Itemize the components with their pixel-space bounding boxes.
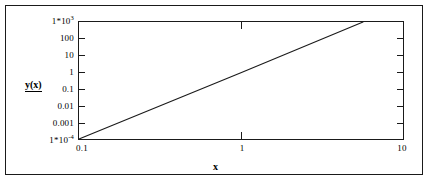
y-tick-label: 1 xyxy=(69,68,74,77)
y-tick-label: 0.001 xyxy=(53,119,74,128)
plot-area xyxy=(78,21,404,140)
y-tick-label: 0.1 xyxy=(62,85,74,94)
y-axis-title: y(x) xyxy=(25,79,42,92)
x-tick-label: 10 xyxy=(397,144,406,153)
data-series-line xyxy=(79,22,363,139)
figure-container: 1*103 100 10 1 0.1 0.01 0.001 1*10-4 0.1… xyxy=(0,0,431,184)
y-tick-label: 100 xyxy=(60,34,74,43)
y-ticks-left xyxy=(79,22,85,140)
x-tick-label: 1 xyxy=(240,144,245,153)
plot-frame xyxy=(79,22,404,140)
y-tick-label: 10 xyxy=(65,51,74,60)
y-tick-label: 0.01 xyxy=(57,102,74,111)
y-ticks-right xyxy=(397,39,403,124)
x-axis-title: x xyxy=(0,162,431,172)
x-tick-label-group: 0.1 1 10 xyxy=(0,144,431,158)
x-tick-label: 0.1 xyxy=(76,144,88,153)
plot-svg xyxy=(78,21,404,140)
y-tick-label: 1*103 xyxy=(52,17,74,26)
